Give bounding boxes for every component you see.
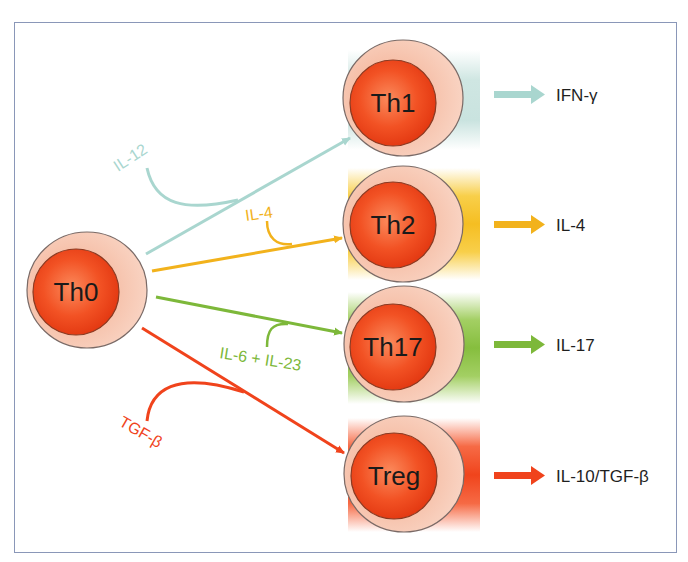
product-label-th17: IL-17 [556,336,595,355]
cell-label-th0: Th0 [54,277,99,307]
arrow-th0-to-th17 [156,297,342,347]
cell-label-th1: Th1 [371,88,416,118]
arrow-th0-to-th1 [146,138,350,254]
product-label-th2: IL-4 [556,216,585,235]
output-arrow-th2 [494,215,545,234]
arrow-th0-to-th2 [152,221,342,271]
differentiation-diagram: IL-12 IL-4 IL-6 + IL-23 TGF-β Th0 Th1 Th… [0,0,688,562]
inducer-label-tgfb: TGF-β [117,413,166,451]
cell-th2[interactable]: Th2 [343,166,463,282]
cell-label-th17: Th17 [363,332,422,362]
cell-treg[interactable]: Treg [344,416,464,532]
cell-th17[interactable]: Th17 [344,286,464,402]
inducer-label-il6-il23: IL-6 + IL-23 [219,344,303,374]
output-arrow-th1 [494,85,545,104]
cell-th1[interactable]: Th1 [343,40,463,156]
cell-th0[interactable]: Th0 [27,232,147,348]
product-label-th1: IFN-γ [556,86,598,105]
inducer-label-il12: IL-12 [110,140,150,174]
output-arrow-th17 [494,335,545,354]
inducer-label-il4: IL-4 [244,203,274,224]
cell-label-treg: Treg [368,461,421,491]
product-label-treg: IL-10/TGF-β [556,467,649,486]
output-arrow-treg [494,466,545,485]
cell-label-th2: Th2 [371,210,416,240]
